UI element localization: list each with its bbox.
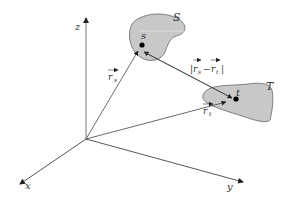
diagram-canvas: z x y S s T t r s r t | r s − r t | — [0, 0, 288, 205]
region-t-label: T — [266, 80, 275, 93]
svg-text:−: − — [203, 64, 211, 74]
y-axis — [86, 139, 243, 182]
z-axis-label: z — [74, 21, 81, 32]
y-axis-label: y — [226, 181, 233, 192]
x-axis-label: x — [25, 180, 31, 191]
x-axis — [20, 139, 86, 184]
vector-difference-label: | r s − r t | — [190, 60, 224, 75]
svg-text:s: s — [114, 76, 117, 83]
svg-text:t: t — [216, 68, 219, 75]
point-s — [139, 42, 144, 47]
svg-text:t: t — [209, 110, 212, 117]
vector-r-s-label: r s — [108, 70, 118, 83]
point-s-label: s — [141, 30, 146, 41]
svg-text:r: r — [108, 72, 113, 82]
svg-text:|: | — [221, 64, 224, 75]
vector-difference-tail — [144, 52, 232, 98]
region-s-label: S — [173, 11, 181, 24]
svg-text:r: r — [203, 106, 208, 116]
vector-r-s — [86, 51, 138, 139]
svg-text:s: s — [198, 68, 201, 75]
